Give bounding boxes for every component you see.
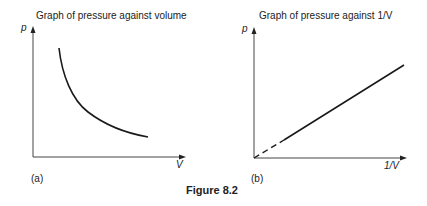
panel-a-x-label: V <box>176 159 183 170</box>
panel-b-x-arrow-icon <box>400 156 407 161</box>
panel-b-line <box>284 65 404 140</box>
panel-b-label: (b) <box>251 173 263 184</box>
panel-b-axes <box>254 33 401 158</box>
panel-b-y-label: p <box>242 23 248 34</box>
panel-b-title: Graph of pressure against 1/V <box>259 10 392 21</box>
panel-a-curve <box>59 48 148 137</box>
figure-caption: Figure 8.2 <box>186 184 238 196</box>
panel-a-y-arrow-icon <box>31 26 36 33</box>
panel-a-title: Graph of pressure against volume <box>36 10 187 21</box>
panel-b-x-label: 1/V <box>384 160 399 171</box>
panel-a-axes <box>33 32 180 157</box>
panel-a-label: (a) <box>31 173 43 184</box>
panel-b-dashed-extrapolation <box>254 140 284 158</box>
panel-b-y-arrow-icon <box>252 27 257 34</box>
figure-canvas <box>0 0 427 206</box>
panel-a-y-label: p <box>21 22 27 33</box>
